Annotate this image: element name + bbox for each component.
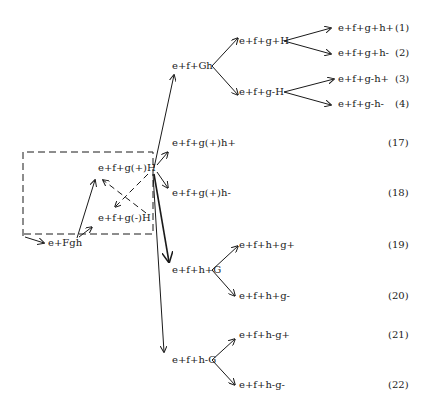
node-fg-plus-H: e+f+g+H bbox=[239, 35, 289, 47]
equation-number-3: (3) bbox=[395, 73, 409, 85]
connector-lines bbox=[0, 0, 434, 413]
equation-number-1: (1) bbox=[395, 22, 409, 34]
equation-number-20: (20) bbox=[388, 290, 409, 302]
node-f-Gh: e+f+Gh bbox=[172, 60, 213, 72]
node-root: e+Fgh bbox=[48, 237, 82, 249]
leaf-2: e+f+g+h- bbox=[338, 47, 389, 59]
node-fh-minus-G: e+f+h-G bbox=[172, 354, 216, 366]
leaf-4: e+f+g-h- bbox=[338, 98, 384, 110]
leaf-20: e+f+h+g- bbox=[239, 290, 290, 302]
node-g-plus-H: e+f+g(+)H bbox=[98, 162, 156, 174]
equation-number-22: (22) bbox=[388, 379, 409, 391]
equation-number-2: (2) bbox=[395, 47, 409, 59]
leaf-21: e+f+h-g+ bbox=[239, 329, 290, 341]
node-g-minus-H: e+f+g(-)H bbox=[98, 212, 151, 224]
node-fg-minus-H: e+f+g-H bbox=[239, 86, 284, 98]
equation-number-17: (17) bbox=[388, 137, 409, 149]
leaf-18: e+f+g(+)h- bbox=[172, 187, 231, 199]
equation-number-4: (4) bbox=[395, 98, 409, 110]
equation-number-18: (18) bbox=[388, 187, 409, 199]
leaf-3: e+f+g-h+ bbox=[338, 73, 389, 85]
leaf-1: e+f+g+h+ bbox=[338, 22, 394, 34]
node-fh-plus-G: e+f+h+G bbox=[172, 264, 221, 276]
equation-number-19: (19) bbox=[388, 239, 409, 251]
leaf-22: e+f+h-g- bbox=[239, 379, 285, 391]
reaction-tree-diagram: e+Fgh e+f+g(+)H e+f+g(-)H e+f+Gh e+f+g+H… bbox=[0, 0, 434, 413]
leaf-17: e+f+g(+)h+ bbox=[172, 137, 236, 149]
leaf-19: e+f+h+g+ bbox=[239, 239, 295, 251]
equation-number-21: (21) bbox=[388, 329, 409, 341]
